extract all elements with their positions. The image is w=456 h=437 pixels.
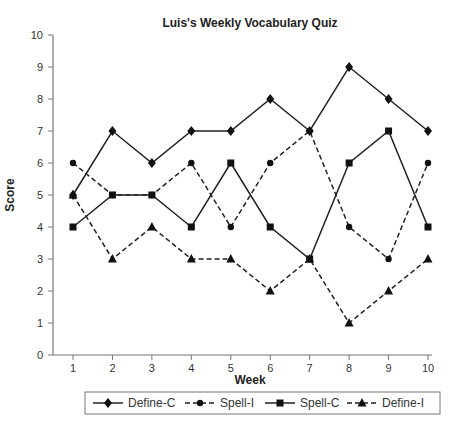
circle-marker [306,128,312,134]
x-tick-label: 3 [149,362,155,374]
series-define-i [69,190,433,327]
square-marker [109,192,116,199]
square-marker [277,400,284,407]
y-tick-label: 3 [37,253,43,265]
circle-marker [385,256,391,262]
y-tick-label: 4 [37,221,43,233]
y-tick-label: 6 [37,157,43,169]
diamond-marker [424,126,432,136]
triangle-marker [226,254,235,263]
y-axis-label: Score [3,178,17,212]
x-axis-label: Week [234,373,265,387]
diamond-marker [266,94,274,104]
square-marker [267,224,274,231]
x-tick-label: 5 [228,362,234,374]
series-spell-c [70,128,432,263]
x-tick-label: 7 [307,362,313,374]
legend-label: Define-I [382,396,424,410]
series-group [69,62,433,327]
x-tick-label: 6 [267,362,273,374]
square-marker [227,160,234,167]
diamond-marker [385,94,393,104]
x-tick-label: 1 [70,362,76,374]
square-marker [425,224,432,231]
triangle-marker [384,286,393,295]
x-tick-label: 10 [422,362,434,374]
y-tick-label: 5 [37,189,43,201]
chart-title: Luis's Weekly Vocabulary Quiz [162,16,337,30]
x-tick-label: 8 [346,362,352,374]
y-tick-label: 10 [31,29,43,41]
axes: 01234567891012345678910 [31,29,434,374]
x-tick-label: 2 [109,362,115,374]
circle-marker [228,224,234,230]
triangle-marker [424,254,433,263]
diamond-marker [187,126,195,136]
triangle-marker [108,254,117,263]
circle-marker [346,224,352,230]
triangle-marker [147,222,156,231]
legend: Define-CSpell-ISpell-CDefine-I [85,392,440,414]
y-tick-label: 8 [37,93,43,105]
circle-marker [267,160,273,166]
circle-marker [188,160,194,166]
square-marker [70,224,77,231]
square-marker [346,160,353,167]
series-define-c [69,62,432,200]
circle-marker [197,400,203,406]
x-tick-label: 9 [385,362,391,374]
diamond-marker [227,126,235,136]
triangle-marker [266,286,275,295]
legend-label: Spell-C [300,396,340,410]
y-tick-label: 7 [37,125,43,137]
circle-marker [425,160,431,166]
square-marker [188,224,195,231]
legend-label: Define-C [128,396,176,410]
square-marker [385,128,392,135]
legend-label: Spell-I [220,396,254,410]
y-tick-label: 1 [37,317,43,329]
square-marker [148,192,155,199]
y-tick-label: 0 [37,349,43,361]
line-chart: Luis's Weekly Vocabulary Quiz 0123456789… [0,0,456,437]
y-tick-label: 2 [37,285,43,297]
y-tick-label: 9 [37,61,43,73]
circle-marker [70,160,76,166]
x-tick-label: 4 [188,362,194,374]
diamond-marker [148,158,156,168]
